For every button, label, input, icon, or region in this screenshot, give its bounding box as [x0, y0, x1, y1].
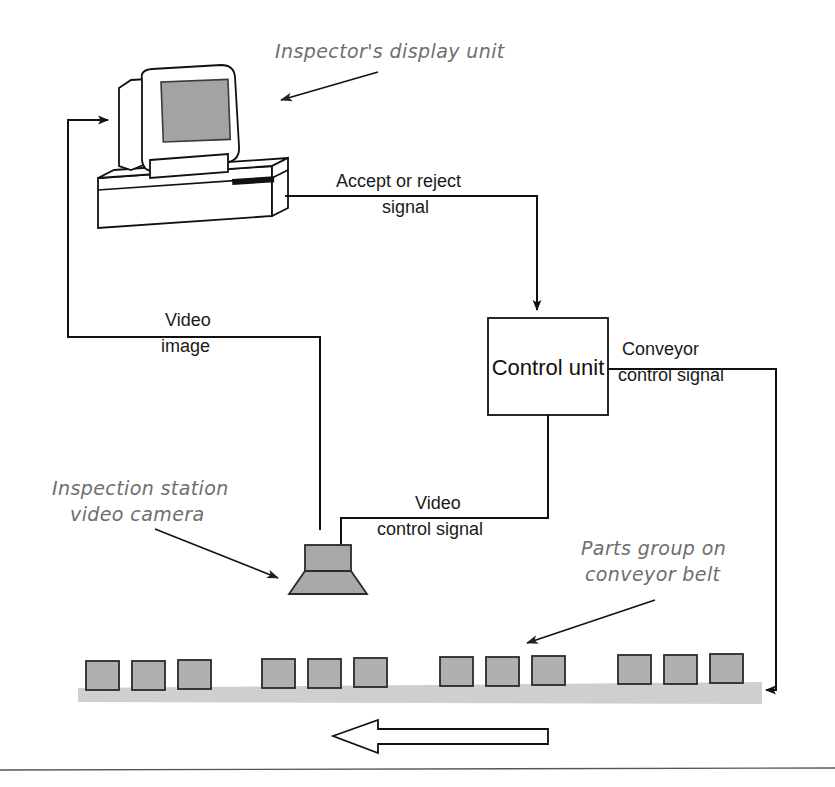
video-image-label-line2: image — [161, 336, 210, 356]
conveyor-control-label-line2: control signal — [618, 365, 724, 385]
part-item — [710, 654, 743, 683]
parts-group-label-line1: Parts group on — [581, 537, 726, 559]
parts-group-label-line2: conveyor belt — [585, 563, 722, 585]
parts-on-conveyor — [86, 654, 743, 690]
inspection-station-video-camera — [289, 545, 367, 594]
control-unit-label: Control unit — [492, 355, 605, 380]
inspector-display-unit — [98, 65, 288, 228]
video-image-label-line1: Video — [165, 310, 211, 330]
part-item — [486, 657, 519, 686]
part-item — [262, 659, 295, 688]
parts-group-callout-arrow — [527, 600, 655, 643]
part-item — [440, 657, 473, 686]
accept-reject-label-line2: signal — [382, 197, 429, 217]
part-item — [354, 658, 387, 687]
part-item — [664, 655, 697, 684]
camera-callout-arrow — [155, 529, 278, 578]
monitor-screen — [161, 79, 230, 142]
display-unit-label: Inspector's display unit — [275, 40, 506, 62]
camera-body — [305, 545, 351, 571]
part-item — [532, 656, 565, 685]
control-unit: Control unit — [488, 318, 608, 415]
part-item — [308, 659, 341, 688]
display-unit-callout-arrow — [281, 72, 378, 100]
camera-label-line2: video camera — [70, 503, 204, 525]
vision-system-diagram: Inspector's display unit Accept or rejec… — [0, 0, 835, 787]
camera-label-line1: Inspection station — [52, 477, 229, 499]
video-control-label-line1: Video — [415, 493, 461, 513]
video-control-label-line2: control signal — [377, 519, 483, 539]
part-item — [86, 661, 119, 690]
belt-direction-arrow — [333, 720, 548, 753]
bottom-divider — [0, 768, 835, 770]
conveyor-control-signal-path — [608, 369, 776, 690]
camera-lens-hood — [289, 571, 367, 594]
part-item — [132, 661, 165, 690]
part-item — [618, 655, 651, 684]
conveyor-control-label-line1: Conveyor — [622, 339, 699, 359]
part-item — [178, 660, 211, 689]
accept-reject-label-line1: Accept or reject — [336, 171, 461, 191]
